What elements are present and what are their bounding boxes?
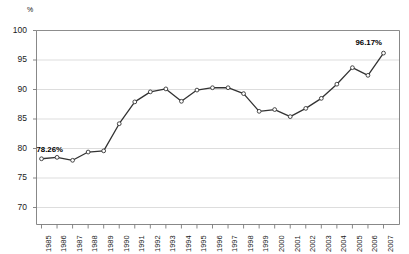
data-point-marker	[117, 122, 121, 126]
data-point-marker	[273, 108, 277, 112]
data-point-marker	[40, 157, 44, 161]
x-axis-tick-label: 2003	[325, 235, 333, 252]
x-axis-tick-label: 1992	[154, 235, 162, 252]
data-point-marker	[86, 150, 90, 154]
y-axis-tick-label: 90	[5, 85, 27, 94]
data-point-marker	[366, 73, 370, 77]
x-axis-tick-label: 1998	[247, 235, 255, 252]
x-axis-tick-label: 1997	[231, 235, 239, 252]
x-axis-tick-label: 1988	[91, 235, 99, 252]
x-axis-tick-label: 1993	[169, 235, 177, 252]
y-axis-tick-label: 85	[5, 114, 27, 123]
x-axis-ticks	[42, 225, 384, 229]
data-point-markers	[40, 51, 386, 162]
y-axis-tick-label: 70	[5, 203, 27, 212]
x-axis-tick-label: 1999	[262, 235, 270, 252]
data-line-series	[42, 53, 384, 160]
x-axis-tick-label: 1990	[123, 235, 131, 252]
data-point-value-label: 96.17%	[356, 38, 382, 47]
x-axis-tick-label: 1994	[185, 235, 193, 252]
data-point-marker	[335, 82, 339, 86]
data-point-marker	[55, 155, 59, 159]
data-point-marker	[226, 86, 230, 90]
x-axis-tick-label: 2005	[356, 235, 364, 252]
y-axis-tick-label: 100	[5, 26, 27, 35]
y-axis-tick-label: 95	[5, 55, 27, 64]
x-axis-tick-label: 2002	[309, 235, 317, 252]
data-point-marker	[351, 66, 355, 70]
gridlines	[37, 31, 400, 208]
x-axis-tick-label: 1995	[200, 235, 208, 252]
y-axis-tick-label: 75	[5, 173, 27, 182]
data-point-marker	[102, 149, 106, 153]
data-point-marker	[195, 88, 199, 92]
y-axis-tick-label: 80	[5, 144, 27, 153]
data-point-marker	[164, 87, 168, 91]
data-point-marker	[180, 99, 184, 103]
x-axis-tick-label: 1987	[76, 235, 84, 252]
x-axis-tick-label: 2007	[387, 235, 395, 252]
data-point-marker	[288, 115, 292, 119]
y-axis-ticks	[33, 31, 37, 208]
data-point-value-label: 78.26%	[37, 145, 63, 154]
x-axis-tick-label: 2004	[340, 235, 348, 252]
x-axis-tick-label: 2006	[371, 235, 379, 252]
data-point-marker	[71, 158, 75, 162]
x-axis-tick-label: 1985	[45, 235, 53, 252]
data-point-marker	[242, 92, 246, 96]
x-axis-tick-label: 1989	[107, 235, 115, 252]
data-point-marker	[304, 106, 308, 110]
data-point-marker	[133, 100, 137, 104]
data-point-marker	[148, 90, 152, 94]
x-axis-tick-label: 2001	[294, 235, 302, 252]
x-axis-tick-label: 1986	[60, 235, 68, 252]
chart-container: % 100959085807570 1985198619871988198919…	[0, 0, 409, 254]
data-point-marker	[257, 109, 261, 113]
line-chart-plot	[0, 0, 409, 254]
data-point-marker	[211, 86, 215, 90]
x-axis-tick-label: 2000	[278, 235, 286, 252]
data-point-marker	[319, 96, 323, 100]
x-axis-tick-label: 1991	[138, 235, 146, 252]
data-point-marker	[382, 51, 386, 55]
x-axis-tick-label: 1996	[216, 235, 224, 252]
